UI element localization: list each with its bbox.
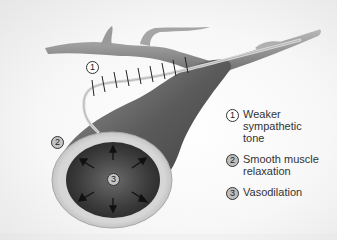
legend-item-vasodilation: 3 Vasodilation xyxy=(226,186,336,200)
legend-number-1: 1 xyxy=(226,109,239,122)
legend-line: sympathetic xyxy=(243,120,302,132)
legend: 1 Weaker sympathetic tone 2 Smooth muscl… xyxy=(226,108,336,209)
label-3-lumen: 3 xyxy=(107,173,120,186)
legend-number-3: 3 xyxy=(226,187,239,200)
legend-item-weaker-sympathetic-tone: 1 Weaker sympathetic tone xyxy=(226,108,336,144)
legend-line: tone xyxy=(243,132,264,144)
legend-number-2: 2 xyxy=(226,154,239,167)
legend-line: Vasodilation xyxy=(243,186,302,198)
legend-line: Smooth muscle xyxy=(243,153,319,165)
legend-text: Smooth muscle relaxation xyxy=(243,153,319,177)
legend-line: Weaker xyxy=(243,108,281,120)
legend-item-smooth-muscle-relaxation: 2 Smooth muscle relaxation xyxy=(226,153,336,177)
label-1-nerve: 1 xyxy=(86,61,99,74)
legend-text: Weaker sympathetic tone xyxy=(243,108,302,144)
legend-text: Vasodilation xyxy=(243,186,302,198)
label-2-smooth-muscle: 2 xyxy=(51,136,64,149)
legend-line: relaxation xyxy=(243,165,291,177)
